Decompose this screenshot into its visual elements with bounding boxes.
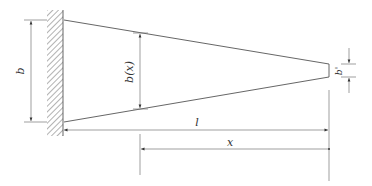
cantilever-diagram: b b(x) b' l x	[0, 0, 372, 186]
label-b-prime: b'	[334, 67, 344, 75]
dimension-bx: b(x)	[123, 33, 148, 109]
label-b: b	[14, 67, 27, 74]
fixed-wall-support	[47, 10, 63, 136]
label-l: l	[195, 116, 199, 129]
tapered-beam	[64, 20, 329, 122]
dimension-l: l	[64, 116, 328, 130]
label-x: x	[227, 136, 234, 149]
dimension-b: b	[14, 20, 47, 122]
label-bx: b(x)	[123, 61, 136, 83]
beam-top-edge	[64, 20, 329, 64]
dimension-b-prime: b'	[334, 48, 356, 93]
hatched-wall-icon	[47, 10, 63, 136]
dimension-x: x	[141, 136, 330, 150]
